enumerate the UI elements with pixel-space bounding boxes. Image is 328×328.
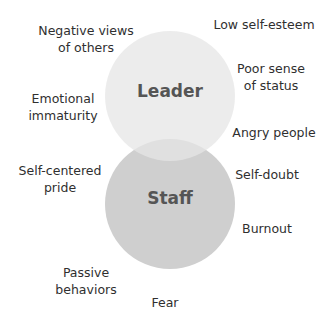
- term-line: Poor sense: [237, 60, 305, 77]
- staff-label: Staff: [147, 188, 193, 208]
- term-line: immaturity: [28, 107, 97, 124]
- term-angry-people: Angry people: [232, 124, 315, 141]
- term-line: Passive: [55, 264, 116, 281]
- term-low-self-esteem: Low self-esteem: [213, 16, 314, 33]
- term-passive-behaviors: Passive behaviors: [55, 264, 116, 298]
- term-line: of status: [237, 77, 305, 94]
- term-line: of others: [38, 39, 133, 56]
- term-line: Burnout: [242, 220, 292, 237]
- term-line: Angry people: [232, 124, 315, 141]
- term-line: pride: [19, 179, 102, 196]
- term-line: Fear: [152, 294, 179, 311]
- term-fear: Fear: [152, 294, 179, 311]
- term-burnout: Burnout: [242, 220, 292, 237]
- term-line: Emotional: [28, 90, 97, 107]
- term-emotional-immaturity: Emotional immaturity: [28, 90, 97, 124]
- term-line: Low self-esteem: [213, 16, 314, 33]
- term-poor-sense-status: Poor sense of status: [237, 60, 305, 94]
- term-self-doubt: Self-doubt: [235, 166, 299, 183]
- term-line: Self-centered: [19, 162, 102, 179]
- term-negative-views: Negative views of others: [38, 22, 133, 56]
- term-line: behaviors: [55, 281, 116, 298]
- term-line: Negative views: [38, 22, 133, 39]
- term-line: Self-doubt: [235, 166, 299, 183]
- term-self-centered-pride: Self-centered pride: [19, 162, 102, 196]
- leader-label: Leader: [137, 81, 203, 101]
